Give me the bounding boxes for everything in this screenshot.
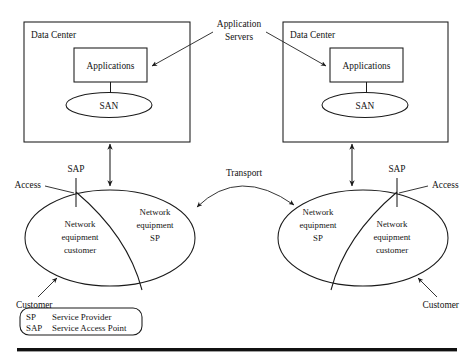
- legend-abbr-sap: SAP: [26, 323, 42, 333]
- left-network: SAP Access Network equipment customer Ne…: [14, 164, 195, 310]
- right-customer-region-line3: customer: [376, 245, 408, 255]
- right-customer-region-line1: Network: [377, 219, 408, 229]
- left-sp-region-line1: Network: [140, 207, 171, 217]
- left-customer-region-line2: equipment: [61, 232, 99, 242]
- right-network-oval: [278, 190, 448, 286]
- application-servers-label-line1: Application: [217, 19, 262, 29]
- left-customer-region-line3: customer: [64, 245, 96, 255]
- san-label-right: SAN: [356, 101, 375, 111]
- transport-link: Transport: [197, 168, 294, 207]
- data-center-left-label: Data Center: [31, 30, 77, 40]
- left-sap-label: SAP: [67, 164, 84, 174]
- right-customer-label: Customer: [423, 300, 460, 310]
- transport-label: Transport: [226, 168, 263, 178]
- legend-abbr-sp: SP: [26, 312, 36, 322]
- legend-expansion-sap: Service Access Point: [52, 323, 127, 333]
- data-center-right: Data Center Applications SAN: [283, 22, 448, 142]
- left-customer-region-line1: Network: [65, 219, 96, 229]
- right-access-leader: [399, 186, 428, 193]
- san-label-left: SAN: [100, 101, 119, 111]
- right-customer-region-line2: equipment: [373, 232, 411, 242]
- diagram-canvas: Data Center Applications SAN Data Center…: [0, 0, 475, 361]
- left-access-leader: [45, 186, 74, 193]
- left-sp-region-line2: equipment: [136, 220, 174, 230]
- data-center-left: Data Center Applications SAN: [24, 22, 190, 142]
- left-sp-region-line3: SP: [150, 233, 160, 243]
- right-network: SAP Access Network equipment SP Network …: [278, 164, 460, 310]
- applications-label-right: Applications: [343, 61, 391, 71]
- right-customer-leader: [418, 278, 437, 297]
- legend: SP Service Provider SAP Service Access P…: [20, 308, 142, 335]
- right-sp-region-line3: SP: [313, 233, 323, 243]
- legend-expansion-sp: Service Provider: [52, 312, 111, 322]
- right-sap-label: SAP: [388, 164, 405, 174]
- right-access-label: Access: [432, 180, 459, 190]
- left-customer-leader: [38, 278, 57, 297]
- applications-label-left: Applications: [87, 61, 135, 71]
- transport-arrow: [197, 186, 294, 207]
- network-architecture-diagram: Data Center Applications SAN Data Center…: [0, 0, 475, 361]
- right-sp-region-line2: equipment: [299, 220, 337, 230]
- application-servers-label-line2: Servers: [225, 32, 253, 42]
- right-sp-region-line1: Network: [303, 207, 334, 217]
- bottom-divider-rule: [17, 348, 457, 351]
- data-center-right-label: Data Center: [290, 30, 336, 40]
- left-access-label: Access: [14, 180, 41, 190]
- left-network-oval: [25, 190, 195, 286]
